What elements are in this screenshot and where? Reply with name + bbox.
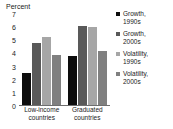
y-axis-tick: 2 xyxy=(12,76,16,83)
legend-item[interactable]: Volatility, 2000s xyxy=(116,70,173,86)
bar xyxy=(32,43,41,105)
bar-group xyxy=(22,14,62,105)
legend-label: Growth, 1990s xyxy=(123,10,146,26)
y-axis-tick: 6 xyxy=(12,24,16,31)
legend-label: Volatility, 2000s xyxy=(123,70,148,86)
chart-legend: Growth, 1990sGrowth, 2000sVolatility, 19… xyxy=(116,10,173,90)
plot-wrapper: 76543210 xyxy=(6,14,110,106)
legend-label: Growth, 2000s xyxy=(123,30,146,46)
x-axis-category-label: Graduated countries xyxy=(65,106,109,122)
y-axis-tick: 3 xyxy=(12,63,16,70)
plot-area xyxy=(19,14,110,106)
legend-item[interactable]: Growth, 2000s xyxy=(116,30,173,46)
legend-item[interactable]: Volatility, 1990s xyxy=(116,50,173,66)
legend-label: Volatility, 1990s xyxy=(123,50,148,66)
y-axis-tick: 7 xyxy=(12,11,16,18)
bar xyxy=(42,37,51,105)
legend-item[interactable]: Growth, 1990s xyxy=(116,10,173,26)
legend-swatch-icon xyxy=(116,12,120,16)
legend-swatch-icon xyxy=(116,72,120,76)
y-axis-tick: 5 xyxy=(12,37,16,44)
bar xyxy=(88,27,97,105)
y-axis-tick: 0 xyxy=(12,103,16,110)
legend-swatch-icon xyxy=(116,32,120,36)
y-axis-unit-label: Percent xyxy=(6,2,30,11)
legend-swatch-icon xyxy=(116,52,120,56)
y-axis-tick: 1 xyxy=(12,89,16,96)
y-axis-tick-labels: 76543210 xyxy=(6,14,18,106)
bar xyxy=(22,73,31,105)
y-axis-tick: 4 xyxy=(12,50,16,57)
bar-groups xyxy=(19,14,110,105)
bar xyxy=(52,55,61,105)
x-axis-category-labels: Low-income countriesGraduated countries xyxy=(19,106,110,122)
x-axis-category-label: Low-income countries xyxy=(20,106,64,122)
bar xyxy=(98,51,107,105)
bar-chart: Percent 76543210 Low-income countriesGra… xyxy=(0,0,173,129)
bar xyxy=(78,26,87,105)
bar xyxy=(68,56,77,105)
bar-group xyxy=(67,14,107,105)
